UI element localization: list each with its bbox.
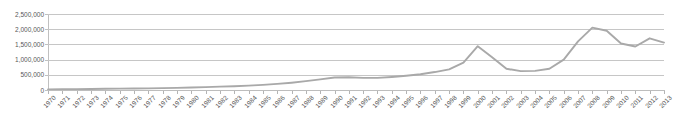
y-axis-tick: [45, 29, 48, 30]
plot-area: [48, 14, 664, 90]
y-axis-tick-label: 1,000,000: [0, 56, 44, 63]
y-axis-tick-label: 500,000: [0, 71, 44, 78]
y-axis-tick-label: 2,500,000: [0, 11, 44, 18]
y-axis-tick-label: 0: [0, 87, 44, 94]
y-axis-tick: [45, 75, 48, 76]
series-line-1: [48, 28, 664, 90]
y-axis-tick: [45, 90, 48, 91]
y-axis-tick-label: 2,000,000: [0, 26, 44, 33]
clipped-title-remnant: [10, 0, 650, 3]
y-axis-tick: [45, 44, 48, 45]
y-axis-tick: [45, 60, 48, 61]
series-svg: [48, 14, 664, 90]
y-axis-tick: [45, 14, 48, 15]
x-axis-labels: 1970197119721973197419751976197719781979…: [48, 94, 665, 131]
y-axis-tick-label: 1,500,000: [0, 41, 44, 48]
